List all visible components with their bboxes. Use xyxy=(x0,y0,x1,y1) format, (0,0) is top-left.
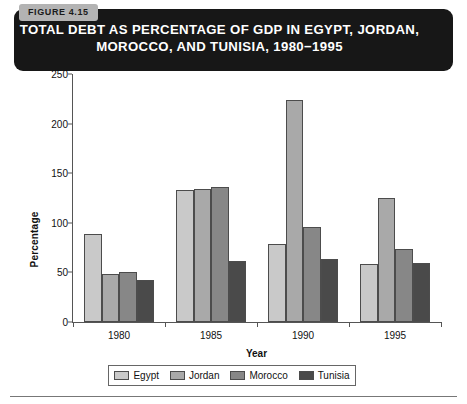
legend-swatch-icon-egypt xyxy=(114,371,129,380)
footer-divider xyxy=(10,396,457,397)
bar-group-1990 xyxy=(257,74,349,322)
chart-title-line-1: TOTAL DEBT AS PERCENTAGE OF GDP IN EGYPT… xyxy=(0,21,439,38)
y-axis-tick-50: 50 xyxy=(34,267,68,278)
legend-swatch-icon-tunisia xyxy=(299,371,314,380)
legend-item-morocco[interactable]: Morocco xyxy=(230,370,287,381)
x-axis-tick-label-1985: 1985 xyxy=(176,330,246,341)
bar-egypt-1995 xyxy=(360,264,378,322)
bar-group-1995 xyxy=(349,74,441,322)
legend-item-jordan[interactable]: Jordan xyxy=(170,370,220,381)
legend-swatch-icon-jordan xyxy=(170,371,185,380)
bar-egypt-1980 xyxy=(84,234,102,322)
x-axis-label: Year xyxy=(72,348,441,359)
y-axis-tick-100: 100 xyxy=(34,217,68,228)
x-axis-tick-mark xyxy=(349,322,350,327)
bar-jordan-1995 xyxy=(378,198,396,322)
bars-container: 1980198519901995 xyxy=(73,74,441,322)
bar-jordan-1985 xyxy=(194,189,212,322)
chart-plot-area: Percentage 050100150200250 1980198519901… xyxy=(0,74,467,404)
x-axis-tick-mark xyxy=(441,322,442,327)
figure-number-tab: FIGURE 4.15 xyxy=(19,4,98,21)
legend-swatch-icon-morocco xyxy=(230,371,245,380)
bar-tunisia-1990 xyxy=(321,259,339,322)
bar-group-1985 xyxy=(165,74,257,322)
bar-egypt-1990 xyxy=(268,244,286,322)
bar-jordan-1980 xyxy=(102,274,120,322)
bar-egypt-1985 xyxy=(176,190,194,322)
bar-morocco-1985 xyxy=(211,187,229,322)
chart-legend: EgyptJordanMoroccoTunisia xyxy=(108,365,356,386)
x-axis-tick-label-1980: 1980 xyxy=(84,330,154,341)
y-axis-tick-150: 150 xyxy=(34,168,68,179)
legend-label: Jordan xyxy=(189,370,220,381)
y-axis-tick-labels: 050100150200250 xyxy=(34,74,68,322)
x-axis-tick-mark xyxy=(73,322,74,327)
y-axis-tick-200: 200 xyxy=(34,118,68,129)
bar-morocco-1980 xyxy=(119,272,137,322)
bar-group-1980 xyxy=(73,74,165,322)
page-title: TOTAL DEBT AS PERCENTAGE OF GDP IN EGYPT… xyxy=(0,21,439,55)
legend-item-egypt[interactable]: Egypt xyxy=(114,370,159,381)
y-axis-tick-250: 250 xyxy=(34,69,68,80)
x-axis-tick-label-1990: 1990 xyxy=(268,330,338,341)
chart-title-line-2: MOROCCO, AND TUNISIA, 1980−1995 xyxy=(0,38,439,55)
legend-label: Egypt xyxy=(133,370,159,381)
x-axis-tick-mark xyxy=(165,322,166,327)
legend-label: Tunisia xyxy=(318,370,350,381)
bar-jordan-1990 xyxy=(286,100,304,322)
bar-tunisia-1980 xyxy=(137,280,155,322)
legend-item-tunisia[interactable]: Tunisia xyxy=(299,370,350,381)
x-axis-tick-label-1995: 1995 xyxy=(360,330,430,341)
x-axis-tick-mark xyxy=(257,322,258,327)
bar-morocco-1990 xyxy=(303,227,321,322)
y-axis-tick-0: 0 xyxy=(34,317,68,328)
bar-tunisia-1995 xyxy=(413,263,431,322)
legend-label: Morocco xyxy=(249,370,287,381)
bar-tunisia-1985 xyxy=(229,261,247,323)
bar-morocco-1995 xyxy=(395,249,413,322)
